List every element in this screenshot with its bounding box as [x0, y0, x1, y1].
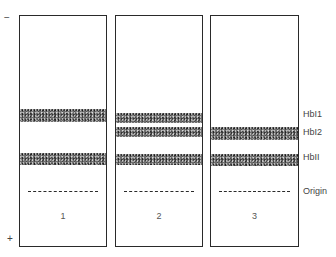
- positive-pole-marker: +: [7, 233, 13, 244]
- band-hbii: [211, 154, 298, 166]
- lane-number: 3: [211, 211, 298, 221]
- band-hbi2: [116, 127, 202, 137]
- band-hbi1: [116, 113, 202, 123]
- label-hbii: HbII: [303, 152, 320, 162]
- gel-lane-1: 1: [19, 15, 107, 247]
- origin-line: [219, 191, 290, 192]
- gel-lane-3: 3: [210, 15, 299, 247]
- band-hbii: [116, 154, 202, 165]
- gel-lane-2: 2: [115, 15, 203, 247]
- negative-pole-marker: −: [4, 12, 10, 23]
- label-origin: Origin: [303, 186, 327, 196]
- lane-number: 2: [116, 211, 202, 221]
- origin-line: [28, 191, 98, 192]
- label-hbi1: HbI1: [303, 109, 322, 119]
- label-hbi2: HbI2: [303, 127, 322, 137]
- band-hbi2: [211, 127, 298, 140]
- band-hbii: [20, 153, 106, 165]
- origin-line: [124, 191, 194, 192]
- lane-number: 1: [20, 211, 106, 221]
- band-hbi1: [20, 109, 106, 122]
